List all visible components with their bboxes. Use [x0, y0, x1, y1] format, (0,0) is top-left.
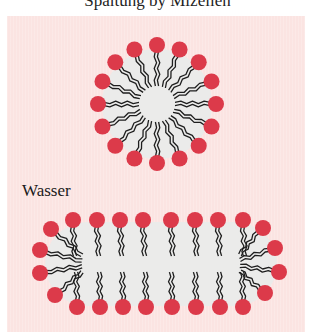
lipid-head — [32, 242, 48, 258]
lipid-head — [191, 54, 207, 70]
lipid-head — [138, 299, 154, 315]
lipid-head — [267, 240, 283, 256]
lipid-head — [257, 285, 273, 301]
lipid-head — [164, 299, 180, 315]
spherical-micelle — [90, 37, 224, 171]
lipid-head — [172, 151, 188, 167]
rod-micelle — [32, 212, 287, 315]
lipid-head — [115, 299, 131, 315]
lipid-head — [191, 138, 207, 154]
lipid-head — [204, 73, 220, 89]
water-label: Wasser — [22, 181, 71, 201]
lipid-head — [112, 212, 128, 228]
lipid-head — [94, 73, 110, 89]
lipid-head — [90, 96, 106, 112]
lipid-head — [107, 54, 123, 70]
lipid-head — [89, 212, 105, 228]
lipid-head — [149, 155, 165, 171]
lipid-head — [208, 96, 224, 112]
lipid-head — [107, 138, 123, 154]
lipid-head — [126, 41, 142, 57]
lipid-head — [65, 212, 81, 228]
lipid-head — [126, 151, 142, 167]
lipid-head — [43, 221, 59, 237]
micelle-diagram — [0, 0, 315, 334]
lipid-head — [172, 41, 188, 57]
lipid-head — [235, 299, 251, 315]
lipid-head — [255, 220, 271, 236]
lipid-head — [212, 299, 228, 315]
lipid-head — [210, 212, 226, 228]
lipid-head — [188, 299, 204, 315]
lipid-head — [204, 119, 220, 135]
lipid-head — [92, 299, 108, 315]
lipid-head — [94, 119, 110, 135]
lipid-head — [69, 299, 85, 315]
lipid-head — [47, 287, 63, 303]
lipid-head — [271, 264, 287, 280]
lipid-head — [135, 212, 151, 228]
lipid-head — [163, 212, 179, 228]
lipid-head — [187, 212, 203, 228]
lipid-head — [32, 265, 48, 281]
lipid-head — [149, 37, 165, 53]
lipid-head — [235, 212, 251, 228]
